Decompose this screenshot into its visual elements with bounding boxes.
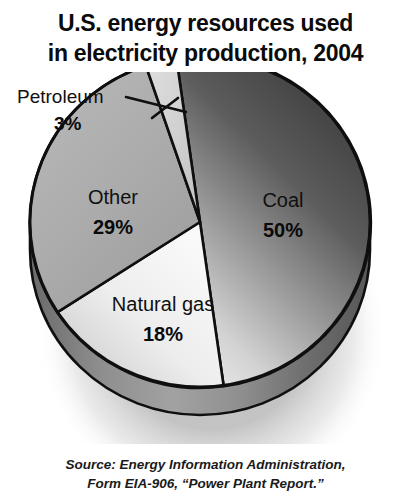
- slice-label-other-value: 29%: [93, 216, 133, 238]
- slice-label-natural-gas-value: 18%: [143, 323, 183, 345]
- slice-label-petroleum-name: Petroleum: [17, 86, 104, 107]
- page-title-line-2: in electricity production, 2004: [0, 38, 411, 68]
- source-note-line-2: Form EIA-906, “Power Plant Report.”: [0, 475, 411, 493]
- page-title: U.S. energy resources used in electricit…: [0, 8, 411, 69]
- slice-label-natural-gas-name: Natural gas: [112, 293, 214, 315]
- source-note-line-1: Source: Energy Information Administratio…: [0, 456, 411, 474]
- slice-label-petroleum-value: 3%: [54, 113, 82, 134]
- source-note: Source: Energy Information Administratio…: [0, 456, 411, 493]
- pie-chart-graphic: Coal 50% Other 29% Natural gas 18% Petro…: [0, 72, 411, 444]
- pie-chart-figure: U.S. energy resources used in electricit…: [0, 0, 411, 501]
- slice-label-coal-name: Coal: [262, 189, 303, 211]
- slice-label-coal-value: 50%: [263, 219, 303, 241]
- slice-label-other-name: Other: [88, 186, 138, 208]
- page-title-line-1: U.S. energy resources used: [0, 8, 411, 38]
